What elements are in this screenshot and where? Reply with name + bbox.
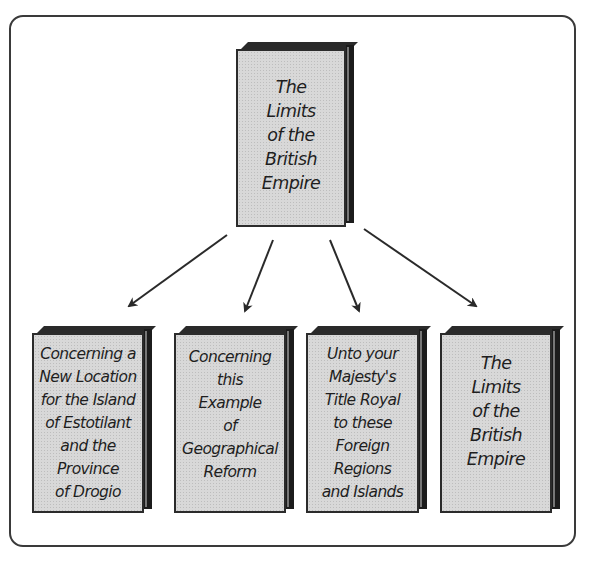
- book-title: The Limits of the British Empire: [467, 335, 525, 471]
- book-cover: Unto your Majesty's Title Royal to these…: [306, 333, 419, 513]
- book-title: Unto your Majesty's Title Royal to these…: [322, 335, 404, 504]
- child-book-2: Concerning this Example of Geographical …: [174, 333, 286, 513]
- book-cover: Concerning a New Location for the Island…: [32, 333, 144, 513]
- child-book-4: The Limits of the British Empire: [440, 333, 552, 513]
- book-title: The Limits of the British Empire: [262, 51, 320, 195]
- arrow-to-book-1: [129, 235, 227, 306]
- book-title: Concerning a New Location for the Island…: [39, 335, 136, 504]
- root-book: The Limits of the British Empire: [236, 49, 346, 227]
- arrow-to-book-2: [245, 240, 273, 311]
- child-book-1: Concerning a New Location for the Island…: [32, 333, 144, 513]
- book-title: Concerning this Example of Geographical …: [182, 335, 278, 484]
- arrow-to-book-3: [330, 240, 359, 311]
- book-cover: Concerning this Example of Geographical …: [174, 333, 286, 513]
- book-cover: The Limits of the British Empire: [440, 333, 552, 513]
- book-cover: The Limits of the British Empire: [236, 49, 346, 227]
- child-book-3: Unto your Majesty's Title Royal to these…: [306, 333, 419, 513]
- arrow-to-book-4: [364, 229, 476, 306]
